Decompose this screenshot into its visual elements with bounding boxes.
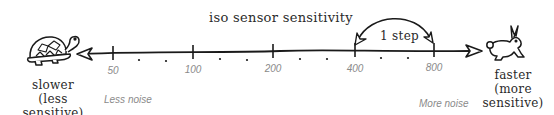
diagram-title: iso sensor sensitivity xyxy=(209,10,353,25)
left-label-line2: (less sensitive) xyxy=(8,92,98,115)
tick-label-800: 800 xyxy=(426,62,443,73)
less-noise-label: Less noise xyxy=(104,94,152,105)
left-label: slower (less sensitive) xyxy=(8,78,98,115)
tick-label-50: 50 xyxy=(107,65,118,76)
tick-label-400: 400 xyxy=(347,63,364,74)
right-label-line3: sensitive) xyxy=(478,96,548,110)
axis-line xyxy=(80,50,470,54)
step-arc-right-arrowhead-icon xyxy=(424,32,433,43)
tick-label-100: 100 xyxy=(185,64,202,75)
right-label: faster (more sensitive) xyxy=(478,68,548,110)
rabbit-icon xyxy=(487,26,524,60)
more-noise-label: More noise xyxy=(419,98,468,109)
right-label-line2: (more xyxy=(478,82,548,96)
turtle-icon xyxy=(28,37,79,65)
right-label-line1: faster xyxy=(478,68,548,82)
left-label-line1: slower xyxy=(8,78,98,92)
step-label: 1 step xyxy=(380,29,419,43)
tick-label-200: 200 xyxy=(265,63,282,74)
